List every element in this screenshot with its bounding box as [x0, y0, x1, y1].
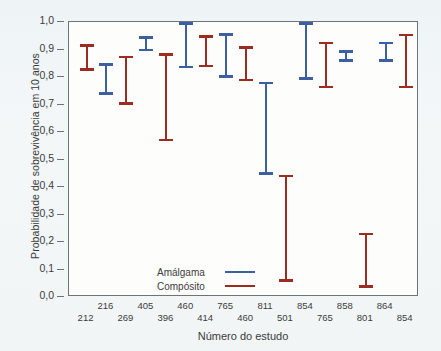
error-bar-stem [165, 53, 167, 141]
x-axis-label: Número do estudo [68, 330, 418, 342]
x-tick-label: 396 [150, 312, 180, 323]
y-tick-mark [57, 49, 64, 50]
error-bar-cap-upper [339, 50, 353, 53]
x-tick-label: 765 [210, 300, 240, 311]
legend-swatch-amalgama [225, 271, 255, 274]
error-bar-stem [365, 233, 367, 288]
error-bar-cap-lower [299, 77, 313, 80]
y-tick-label: 0,8 [39, 69, 54, 81]
error-bar-cap-lower [359, 285, 373, 288]
plot-area: Amálgama Compósito [68, 21, 418, 296]
x-tick-label: 216 [90, 300, 120, 311]
y-tick-mark [57, 104, 64, 105]
error-bar-cap-lower [399, 86, 413, 89]
y-tick-mark [57, 214, 64, 215]
x-tick-label: 854 [290, 300, 320, 311]
x-tick-label: 801 [350, 312, 380, 323]
error-bar-cap-lower [99, 92, 113, 95]
error-bar-cap-lower [159, 139, 173, 142]
y-tick-label: 0,1 [39, 262, 54, 274]
y-tick-mark [57, 76, 64, 77]
y-tick-label: 0,6 [39, 124, 54, 136]
y-tick-label: 0,0 [39, 289, 54, 301]
y-tick-mark [57, 21, 64, 22]
chart-figure: Probabilidade de sobrevivência em 10 ano… [0, 0, 441, 351]
y-tick-mark [57, 241, 64, 242]
error-bar-stem [265, 82, 267, 175]
x-tick-label: 212 [71, 312, 101, 323]
error-bar-cap-upper [80, 44, 94, 47]
error-bar-cap-lower [239, 79, 253, 82]
chart-legend: Amálgama Compósito [157, 265, 255, 293]
x-tick-label: 811 [250, 300, 280, 311]
error-bar-cap-upper [159, 53, 173, 56]
error-bar-stem [205, 35, 207, 67]
x-tick-label: 858 [330, 300, 360, 311]
error-bar-stem [105, 63, 107, 95]
legend-item-amalgama: Amálgama [157, 265, 255, 279]
y-tick-label: 0,9 [39, 42, 54, 54]
x-tick-label: 765 [310, 312, 340, 323]
error-bar-cap-upper [259, 82, 273, 85]
y-tick-label: 0,2 [39, 234, 54, 246]
x-tick-label: 405 [130, 300, 160, 311]
error-bar-cap-lower [179, 66, 193, 69]
y-tick-mark [57, 159, 64, 160]
y-tick-label: 0,4 [39, 179, 54, 191]
error-bar-cap-lower [339, 59, 353, 62]
error-bar-cap-lower [259, 172, 273, 175]
error-bar-cap-lower [219, 75, 233, 78]
error-bar-cap-lower [279, 279, 293, 282]
error-bar-cap-upper [119, 56, 133, 59]
y-tick-label: 1,0 [39, 14, 54, 26]
x-tick-label: 269 [110, 312, 140, 323]
error-bar-cap-upper [359, 233, 373, 236]
error-bar-cap-upper [199, 35, 213, 38]
error-bar-cap-lower [119, 102, 133, 105]
error-bar-stem [86, 44, 88, 71]
error-bar-cap-upper [219, 33, 233, 36]
error-bar-stem [325, 42, 327, 89]
x-tick-label: 864 [370, 300, 400, 311]
error-bar-cap-upper [319, 42, 333, 45]
error-bar-cap-lower [199, 65, 213, 68]
y-tick-mark [57, 131, 64, 132]
legend-item-composito: Compósito [157, 279, 255, 293]
legend-label-composito: Compósito [157, 281, 219, 292]
error-bar-cap-lower [379, 59, 393, 62]
error-bar-cap-upper [99, 63, 113, 66]
legend-swatch-composito [225, 285, 255, 288]
error-bar-cap-lower [319, 86, 333, 89]
error-bar-cap-upper [239, 46, 253, 49]
y-tick-label: 0,5 [39, 152, 54, 164]
x-tick-label: 414 [190, 312, 220, 323]
x-tick-label: 501 [270, 312, 300, 323]
y-tick-label: 0,3 [39, 207, 54, 219]
legend-label-amalgama: Amálgama [157, 267, 219, 278]
error-bar-stem [285, 175, 287, 282]
error-bar-cap-lower [80, 68, 94, 71]
x-tick-label: 460 [230, 312, 260, 323]
error-bar-stem [245, 46, 247, 81]
error-bar-stem [125, 56, 127, 105]
x-tick-label: 854 [390, 312, 420, 323]
error-bar-cap-upper [299, 22, 313, 25]
error-bar-cap-upper [379, 42, 393, 45]
y-tick-label: 0,7 [39, 97, 54, 109]
error-bar-cap-upper [179, 22, 193, 25]
error-bar-cap-upper [279, 175, 293, 178]
y-tick-mark [57, 296, 64, 297]
error-bar-cap-lower [139, 49, 153, 52]
x-tick-label: 460 [170, 300, 200, 311]
error-bar-cap-upper [139, 36, 153, 39]
error-bar-cap-upper [399, 34, 413, 37]
error-bar-stem [405, 34, 407, 89]
error-bar-stem [225, 33, 227, 78]
error-bar-stem [185, 22, 187, 68]
y-tick-mark [57, 186, 64, 187]
y-tick-mark [57, 269, 64, 270]
error-bar-stem [305, 22, 307, 80]
